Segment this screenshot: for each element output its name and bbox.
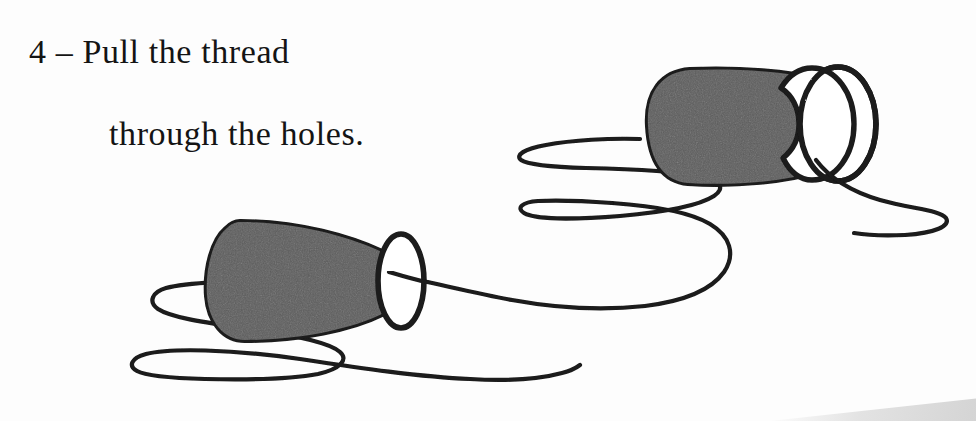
caption-line-1: 4 – Pull the thread [29,32,290,72]
cup-right [640,60,876,195]
illustration-page: 4 – Pull the thread through the holes. [0,0,976,421]
caption-line-2: through the holes. [109,114,364,154]
cup-left [200,215,424,347]
